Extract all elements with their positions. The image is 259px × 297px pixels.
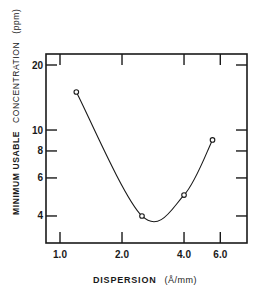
y-axis-label-unit: (ppm) — [11, 9, 21, 34]
x-axis-label-main: DISPERSION — [93, 275, 157, 285]
data-point-marker — [210, 138, 215, 143]
y-tick-label: 6 — [37, 172, 43, 183]
x-tick-label: 4.0 — [177, 249, 191, 260]
x-axis-ticks: 1.02.04.06.0 — [53, 54, 228, 260]
data-markers — [74, 90, 215, 219]
y-tick-label: 8 — [37, 145, 43, 156]
x-tick-label: 2.0 — [115, 249, 129, 260]
y-tick-label: 4 — [37, 210, 43, 221]
y-tick-label: 10 — [32, 125, 44, 136]
x-tick-label: 6.0 — [213, 249, 227, 260]
y-tick-label: 20 — [32, 60, 44, 71]
y-axis-label-main: MINIMUM USABLE — [11, 131, 21, 215]
chart-canvas: 4681020 1.02.04.06.0 MINIMUM USABLE CONC… — [0, 0, 259, 297]
x-axis-label: DISPERSION (Å/mm) — [93, 269, 197, 286]
y-axis-label-rest: CONCENTRATION — [11, 42, 21, 123]
data-point-marker — [74, 90, 79, 95]
plot-frame — [46, 54, 247, 243]
y-axis-label: MINIMUM USABLE CONCENTRATION (ppm) — [5, 9, 22, 215]
data-point-marker — [140, 214, 145, 219]
x-axis-label-unit: (Å/mm) — [165, 275, 198, 285]
data-curve — [76, 92, 212, 222]
x-tick-label: 1.0 — [53, 249, 67, 260]
data-point-marker — [182, 193, 187, 198]
